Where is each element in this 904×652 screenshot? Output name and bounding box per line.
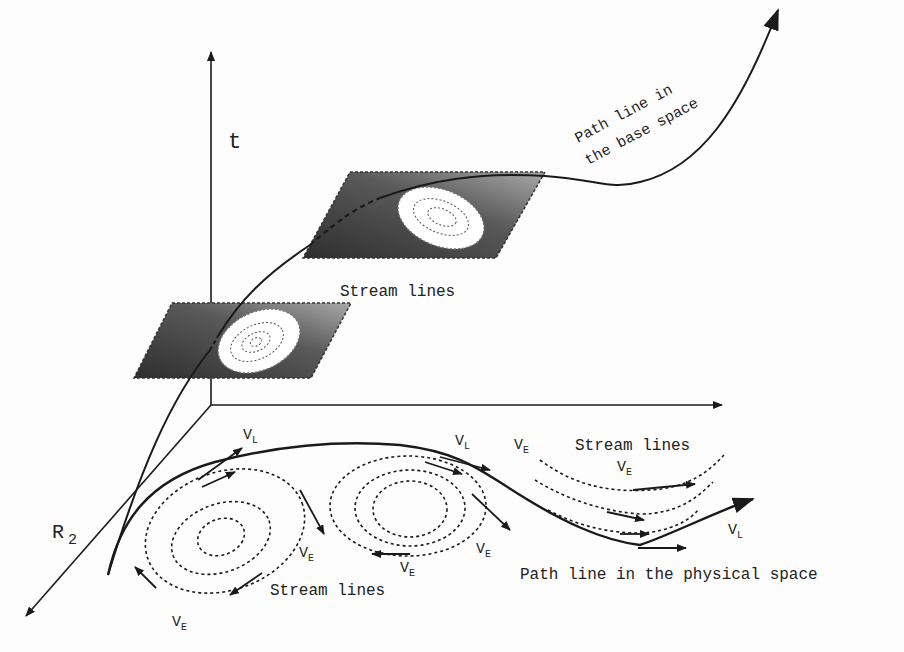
ve-label-2: VE	[172, 614, 187, 633]
vl-label-3: VL	[728, 522, 743, 541]
vl-label-2: VL	[455, 433, 470, 452]
ve-label-3: VE	[400, 560, 415, 579]
stream-lines-label-right: Stream lines	[575, 437, 690, 455]
diagram-svg: t R2 Path line in the base space Stream …	[0, 0, 904, 652]
physical-space-path-line: Path line in the physical space	[108, 443, 818, 584]
r2-axis	[26, 405, 211, 616]
vl-label-1: VL	[243, 427, 258, 446]
base-stream-lines-label: Stream lines	[340, 283, 455, 301]
ve-arrow-3	[135, 567, 156, 588]
ve-label-1: VE	[299, 545, 314, 564]
ve-label-5: VE	[514, 437, 529, 456]
t-axis-label: t	[228, 130, 241, 155]
diagram-canvas: t R2 Path line in the base space Stream …	[0, 0, 904, 652]
stream-lines-label-left: Stream lines	[270, 582, 385, 600]
vl-arrow-2	[440, 457, 490, 470]
ve-arrow-7	[472, 494, 510, 530]
r2-axis-label: R2	[52, 521, 77, 549]
base-space-path-line: Path line in the base space Stream lines	[108, 10, 778, 575]
physical-path-label: Path line in the physical space	[520, 566, 818, 584]
ve-arrow-8	[633, 484, 695, 490]
ve-label-4: VE	[476, 541, 491, 560]
middle-vortex-streamlines	[330, 456, 486, 556]
lower-plane	[134, 297, 351, 386]
ve-arrow-4	[230, 573, 262, 595]
ve-label-6: VE	[617, 459, 632, 478]
